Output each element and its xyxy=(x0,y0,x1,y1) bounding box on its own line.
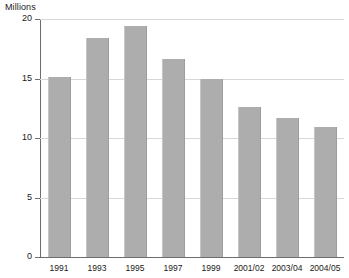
bar xyxy=(314,127,337,257)
bar xyxy=(86,38,109,257)
x-axis-tick-label: 2004/05 xyxy=(310,263,341,273)
x-axis-tick-label: 1995 xyxy=(126,263,145,273)
y-axis-tick-mark xyxy=(35,198,40,199)
gridline xyxy=(40,19,344,20)
y-axis-tick-mark xyxy=(35,257,40,258)
y-axis-tick-label: 0 xyxy=(2,251,32,261)
y-axis-tick-mark xyxy=(35,138,40,139)
x-axis-tick-label: 2003/04 xyxy=(272,263,303,273)
y-axis-tick-mark xyxy=(35,19,40,20)
y-axis-unit-caption: Millions xyxy=(5,2,36,12)
bar-chart: Millions 0510152019911993199519971999200… xyxy=(0,0,349,278)
x-axis-tick-label: 1993 xyxy=(88,263,107,273)
plot-area xyxy=(40,19,344,257)
y-axis-tick-mark xyxy=(35,79,40,80)
bar xyxy=(200,79,223,258)
x-axis-tick-label: 1991 xyxy=(50,263,69,273)
bar xyxy=(48,77,71,257)
x-axis-tick-label: 1999 xyxy=(202,263,221,273)
y-axis-tick-label: 5 xyxy=(2,192,32,202)
y-axis-tick-label: 20 xyxy=(2,13,32,23)
bar xyxy=(238,107,261,257)
x-axis-tick-label: 2001/02 xyxy=(234,263,265,273)
y-axis-tick-label: 10 xyxy=(2,132,32,142)
y-axis-tick-label: 15 xyxy=(2,73,32,83)
axis-baseline xyxy=(40,257,344,258)
x-axis-tick-label: 1997 xyxy=(164,263,183,273)
bar xyxy=(162,59,185,257)
bar xyxy=(124,26,147,257)
bar xyxy=(276,118,299,257)
